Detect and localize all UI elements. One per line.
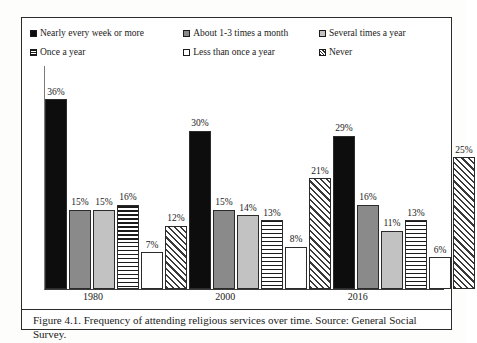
bar[interactable] [141,252,163,289]
bar-group: 36%15%15%16%7%12% [45,66,189,289]
x-axis-tick-label: 2000 [177,291,309,307]
bar-slot: 30% [189,66,211,289]
bar-value-label: 36% [47,88,64,98]
figure-frame: Nearly every week or moreAbout 1-3 times… [21,17,452,330]
bar-value-label: 21% [311,167,328,177]
bar-value-label: 15% [95,198,112,208]
bar-slot: 16% [357,66,379,289]
legend-row: Once a yearLess than once a yearNever [30,43,445,62]
bar[interactable] [357,205,379,289]
bar-groups: 36%15%15%16%7%12%30%15%14%13%8%21%29%16%… [45,66,443,289]
bar[interactable] [261,220,283,289]
legend-item[interactable]: Several times a year [319,29,445,39]
legend-item[interactable]: Once a year [30,48,183,58]
bar[interactable] [69,210,91,289]
legend-swatch-icon [319,49,326,56]
bar-value-label: 7% [146,241,159,251]
bar-group: 29%16%11%13%6%25% [333,66,477,289]
bar[interactable] [285,247,307,289]
bar[interactable] [405,220,427,289]
bar[interactable] [333,136,355,289]
bar-slot: 21% [309,66,331,289]
caption-divider [22,309,451,310]
bar-value-label: 13% [263,209,280,219]
legend-item[interactable]: Nearly every week or more [30,29,183,39]
bar[interactable] [309,178,331,289]
bar-value-label: 16% [119,193,136,203]
bar[interactable] [93,210,115,289]
figure-caption: Figure 4.1. Frequency of attending relig… [33,314,439,342]
bar-slot: 8% [285,66,307,289]
legend-row: Nearly every week or moreAbout 1-3 times… [30,24,445,43]
bar[interactable] [237,215,259,289]
bar-slot: 13% [405,66,427,289]
bar-value-label: 15% [215,198,232,208]
bar-slot: 14% [237,66,259,289]
bar-slot: 15% [93,66,115,289]
legend-item-label: Never [329,48,352,58]
bar-slot: 36% [45,66,67,289]
bar-slot: 15% [213,66,235,289]
bar[interactable] [45,99,67,289]
bar-slot: 12% [165,66,187,289]
bar-slot: 6% [429,66,451,289]
bar-value-label: 29% [335,124,352,134]
bar-slot: 11% [381,66,403,289]
bar[interactable] [189,131,211,289]
bar-value-label: 25% [455,146,472,156]
legend-swatch-icon [183,49,190,56]
bar[interactable] [381,231,403,289]
legend-swatch-icon [30,30,37,37]
bar-value-label: 30% [191,119,208,129]
plot-area: 36%15%15%16%7%12%30%15%14%13%8%21%29%16%… [23,66,452,290]
bar-slot: 25% [453,66,475,289]
bar[interactable] [117,205,139,289]
bar-value-label: 11% [383,219,400,229]
legend-item-label: Nearly every week or more [40,29,144,39]
x-axis-tick-label: 2016 [310,291,442,307]
bar[interactable] [429,257,451,289]
bar-slot: 15% [69,66,91,289]
bar[interactable] [453,157,475,289]
legend-item[interactable]: About 1-3 times a month [183,29,319,39]
legend-item[interactable]: Never [319,48,445,58]
bar-slot: 29% [333,66,355,289]
legend-item[interactable]: Less than once a year [183,48,319,58]
chart-legend: Nearly every week or moreAbout 1-3 times… [22,24,453,64]
bar-group: 30%15%14%13%8%21% [189,66,333,289]
bar-slot: 16% [117,66,139,289]
bar-value-label: 16% [359,193,376,203]
bar-slot: 7% [141,66,163,289]
bar-value-label: 15% [71,198,88,208]
x-axis-tick-labels: 198020002016 [45,291,442,307]
legend-swatch-icon [183,30,190,37]
legend-swatch-icon [30,49,37,56]
bar-value-label: 6% [434,246,447,256]
bar-value-label: 13% [407,209,424,219]
legend-item-label: Less than once a year [193,48,275,58]
bar-slot: 13% [261,66,283,289]
bar-value-label: 12% [167,214,184,224]
bar-value-label: 8% [290,235,303,245]
bar[interactable] [213,210,235,289]
legend-swatch-icon [319,30,326,37]
legend-item-label: About 1-3 times a month [193,29,288,39]
legend-item-label: Several times a year [329,29,406,39]
bar[interactable] [165,226,187,289]
x-axis-tick-label: 1980 [45,291,177,307]
legend-item-label: Once a year [40,48,85,58]
bar-value-label: 14% [239,204,256,214]
